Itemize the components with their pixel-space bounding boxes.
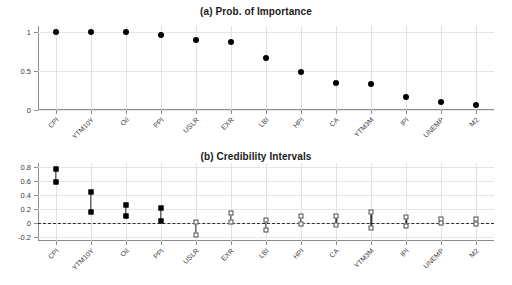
x-tick-label-YTM10Y: YTM10Y: [70, 116, 94, 140]
x-tick-mark-b: [336, 241, 337, 245]
x-tick-mark-a: [336, 110, 337, 114]
y-tick-label-b: 0: [27, 218, 31, 227]
y-tick-label-a: 1: [27, 28, 31, 37]
ci-upper-marker-IPI: [404, 215, 409, 220]
x-tick-mark-b: [406, 241, 407, 245]
gridline-vertical-a: [336, 26, 337, 110]
x-tick-label-M2: M2: [469, 116, 481, 128]
x-tick-label-YTM10Y: YTM10Y: [70, 247, 94, 271]
x-tick-label-CPI: CPI: [46, 247, 59, 260]
ci-lower-marker-CA: [334, 222, 339, 227]
data-point-YTM10Y: [88, 29, 94, 35]
x-tick-mark-a: [56, 110, 57, 114]
ci-lower-marker-CPI: [53, 179, 58, 184]
y-tick-label-a: 0: [27, 106, 31, 115]
x-tick-label-Oil: Oil: [119, 247, 130, 258]
x-tick-label-LBI: LBI: [258, 247, 270, 259]
x-tick-mark-b: [56, 241, 57, 245]
x-tick-mark-a: [371, 110, 372, 114]
x-tick-label-UNEMP: UNEMP: [422, 116, 445, 139]
ci-lower-marker-PPI: [158, 218, 163, 223]
plot-area-b: -0.200.20.40.60.8CPIYTM10YOilPPIUSLREXRL…: [38, 163, 494, 241]
x-tick-label-IPI: IPI: [399, 247, 410, 258]
ci-lower-marker-M2: [474, 222, 479, 227]
y-tick-mark-b: [34, 167, 38, 168]
plot-area-a: 00.51CPIYTM10YOilPPIUSLREXRLBIHPICAYTM3M…: [38, 26, 494, 110]
ci-lower-marker-YTM3M: [369, 226, 374, 231]
data-point-PPI: [158, 32, 164, 38]
y-tick-mark-b: [34, 181, 38, 182]
data-point-CA: [333, 80, 339, 86]
gridline-vertical-b: [231, 163, 232, 241]
x-tick-mark-b: [196, 241, 197, 245]
panel-prob-of-importance: (a) Prob. of Importance 00.51CPIYTM10YOi…: [0, 0, 512, 145]
data-point-UNEMP: [438, 99, 444, 105]
x-tick-mark-b: [476, 241, 477, 245]
x-tick-label-USLR: USLR: [182, 116, 200, 134]
data-point-CPI: [53, 29, 59, 35]
x-tick-mark-a: [301, 110, 302, 114]
gridline-vertical-a: [266, 26, 267, 110]
x-tick-label-PPI: PPI: [152, 247, 165, 260]
ci-upper-marker-LBI: [264, 218, 269, 223]
y-tick-mark-b: [34, 195, 38, 196]
x-tick-label-YTM3M: YTM3M: [353, 116, 375, 138]
x-tick-label-M2: M2: [469, 247, 481, 259]
ci-upper-marker-M2: [474, 216, 479, 221]
x-tick-label-EXR: EXR: [220, 116, 235, 131]
gridline-vertical-b: [336, 163, 337, 241]
x-tick-label-YTM3M: YTM3M: [353, 247, 375, 269]
x-tick-label-HPI: HPI: [292, 116, 305, 129]
data-point-EXR: [228, 39, 234, 45]
gridline-vertical-a: [91, 26, 92, 110]
panel-b-title: (b) Credibility Intervals: [0, 151, 512, 162]
gridline-vertical-a: [371, 26, 372, 110]
ci-upper-marker-Oil: [123, 202, 128, 207]
x-tick-label-EXR: EXR: [220, 247, 235, 262]
x-tick-mark-b: [266, 241, 267, 245]
x-tick-mark-a: [126, 110, 127, 114]
ci-lower-marker-UNEMP: [439, 220, 444, 225]
x-tick-mark-a: [161, 110, 162, 114]
gridline-vertical-b: [406, 163, 407, 241]
ci-upper-marker-YTM10Y: [88, 190, 93, 195]
data-point-Oil: [123, 29, 129, 35]
ci-upper-marker-CA: [334, 213, 339, 218]
x-tick-mark-a: [441, 110, 442, 114]
gridline-vertical-b: [476, 163, 477, 241]
x-tick-mark-b: [301, 241, 302, 245]
x-tick-label-UNEMP: UNEMP: [422, 247, 445, 270]
panel-a-title: (a) Prob. of Importance: [0, 6, 512, 17]
x-tick-mark-b: [91, 241, 92, 245]
ci-upper-marker-USLR: [193, 220, 198, 225]
y-tick-label-b: 0.2: [21, 204, 31, 213]
y-tick-label-b: 0.6: [21, 177, 31, 186]
gridline-vertical-b: [441, 163, 442, 241]
y-tick-mark-b: [34, 209, 38, 210]
gridline-vertical-a: [126, 26, 127, 110]
ci-lower-marker-LBI: [264, 227, 269, 232]
x-tick-mark-a: [196, 110, 197, 114]
x-tick-mark-a: [476, 110, 477, 114]
y-axis-line-a: [38, 26, 39, 110]
panel-credibility-intervals: (b) Credibility Intervals -0.200.20.40.6…: [0, 145, 512, 285]
data-point-LBI: [263, 55, 269, 61]
y-tick-label-b: -0.2: [18, 232, 31, 241]
y-tick-mark-a: [34, 110, 38, 111]
y-tick-mark-b: [34, 237, 38, 238]
x-tick-label-CPI: CPI: [46, 116, 59, 129]
ci-lower-marker-Oil: [123, 213, 128, 218]
ci-upper-marker-HPI: [299, 213, 304, 218]
x-tick-mark-a: [231, 110, 232, 114]
x-tick-label-CA: CA: [328, 116, 340, 128]
y-tick-label-b: 0.4: [21, 191, 31, 200]
y-axis-line-b: [38, 163, 39, 241]
gridline-vertical-a: [441, 26, 442, 110]
ci-upper-marker-EXR: [228, 211, 233, 216]
ci-lower-marker-HPI: [299, 222, 304, 227]
y-tick-label-b: 0.8: [21, 163, 31, 172]
ci-lower-marker-USLR: [193, 233, 198, 238]
ci-upper-marker-CPI: [53, 167, 58, 172]
ci-lower-marker-IPI: [404, 223, 409, 228]
ci-lower-marker-EXR: [228, 220, 233, 225]
